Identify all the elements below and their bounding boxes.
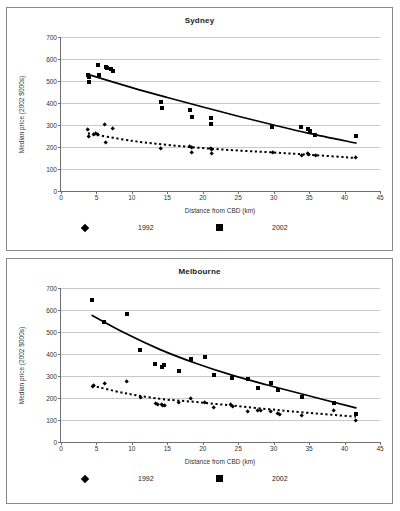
x-axis-tick-label: 10	[128, 194, 135, 201]
y-axis-tick-label: 400	[46, 351, 57, 358]
square-glyph	[216, 224, 223, 231]
data-point-2002	[153, 362, 157, 366]
x-axis-tick-label: 20	[199, 194, 206, 201]
x-axis-tick-label: 0	[59, 194, 63, 201]
plot-area-sydney: 0100200300400500600700051015202530354045	[60, 37, 380, 192]
trend-lines	[61, 288, 380, 442]
y-axis-tick-label: 100	[46, 417, 57, 424]
x-axis-tick-label: 45	[376, 445, 383, 452]
x-axis-tick-label: 40	[341, 194, 348, 201]
data-point-2002	[270, 125, 274, 129]
data-point-2002	[209, 116, 213, 120]
data-point-2002	[162, 363, 166, 367]
x-axis-tick-label: 35	[305, 194, 312, 201]
chart-title-sydney: Sydney	[7, 16, 392, 25]
x-axis-title-melbourne: Distance from CBD (km)	[60, 458, 380, 465]
square-marker-icon	[212, 475, 226, 482]
x-axis-tick-label: 0	[59, 445, 63, 452]
data-point-2002	[299, 125, 303, 129]
plot-wrapper-sydney: Median price (2002 $000s) 01002003004005…	[7, 25, 394, 200]
data-point-2002	[212, 373, 216, 377]
legend-label: 2002	[272, 475, 288, 482]
data-point-2002	[96, 63, 100, 67]
data-point-2002	[177, 369, 181, 373]
y-axis-tick-label: 200	[46, 395, 57, 402]
data-point-2002	[209, 122, 213, 126]
chart-title-melbourne: Melbourne	[7, 267, 392, 276]
x-axis-title-sydney: Distance from CBD (km)	[60, 207, 380, 214]
diamond-glyph	[81, 223, 89, 231]
square-marker-icon	[212, 224, 226, 231]
data-point-2002	[111, 69, 115, 73]
data-point-2002	[276, 388, 280, 392]
diamond-marker-icon	[78, 476, 92, 482]
x-axis-tick-label: 15	[164, 445, 171, 452]
x-axis-tick-label: 45	[376, 194, 383, 201]
data-point-2002	[188, 108, 192, 112]
x-axis-tick-label: 35	[305, 445, 312, 452]
trend-lines	[61, 37, 380, 191]
plot-area-melbourne: 0100200300400500600700051015202530354045	[60, 288, 380, 443]
legend-label: 1992	[138, 224, 154, 231]
diamond-glyph	[81, 474, 89, 482]
square-glyph	[216, 475, 223, 482]
data-point-2002	[246, 377, 250, 381]
top-cropped-caption	[0, 0, 400, 6]
y-axis-tick-label: 700	[46, 285, 57, 292]
data-point-2002	[159, 100, 163, 104]
y-axis-tick-label: 300	[46, 122, 57, 129]
data-point-2002	[87, 75, 91, 79]
legend-item-1992: 1992	[78, 475, 154, 482]
legend-sydney: 19922002	[60, 224, 380, 246]
data-point-2002	[230, 376, 234, 380]
y-axis-tick-label: 0	[53, 439, 57, 446]
data-point-2002	[189, 357, 193, 361]
legend-item-2002: 2002	[212, 475, 288, 482]
y-axis-tick-label: 0	[53, 188, 57, 195]
data-point-2002	[190, 115, 194, 119]
legend-melbourne: 19922002	[60, 475, 380, 497]
diamond-marker-icon	[78, 225, 92, 231]
y-axis-tick-label: 600	[46, 56, 57, 63]
data-point-2002	[102, 320, 106, 324]
y-axis-tick-label: 200	[46, 144, 57, 151]
data-point-2002	[354, 134, 358, 138]
data-point-2002	[90, 298, 94, 302]
legend-item-2002: 2002	[212, 224, 288, 231]
plot-wrapper-melbourne: Median price (2002 $000s) 01002003004005…	[7, 276, 394, 451]
y-axis-tick-label: 400	[46, 100, 57, 107]
trend-line-2002	[92, 316, 356, 408]
legend-label: 1992	[138, 475, 154, 482]
data-point-2002	[87, 80, 91, 84]
data-point-2002	[308, 129, 312, 133]
x-axis-tick-label: 5	[95, 445, 99, 452]
x-axis-tick-label: 25	[235, 194, 242, 201]
x-axis-tick-label: 25	[235, 445, 242, 452]
x-axis-tick-label: 40	[341, 445, 348, 452]
data-point-2002	[97, 73, 101, 77]
x-axis-tick-label: 30	[270, 194, 277, 201]
y-axis-tick-label: 700	[46, 34, 57, 41]
data-point-2002	[354, 412, 358, 416]
data-point-2002	[160, 106, 164, 110]
chart-panel-melbourne: Melbourne Median price (2002 $000s) 0100…	[6, 258, 393, 504]
chart-panel-sydney: Sydney Median price (2002 $000s) 0100200…	[6, 7, 393, 251]
x-axis-tick-label: 30	[270, 445, 277, 452]
legend-label: 2002	[272, 224, 288, 231]
data-point-2002	[313, 133, 317, 137]
y-axis-tick-label: 100	[46, 166, 57, 173]
x-axis-tick-label: 20	[199, 445, 206, 452]
y-axis-tick-label: 500	[46, 78, 57, 85]
data-point-2002	[269, 381, 273, 385]
data-point-2002	[300, 395, 304, 399]
x-axis-tick-label: 10	[128, 445, 135, 452]
legend-item-1992: 1992	[78, 224, 154, 231]
data-point-2002	[125, 312, 129, 316]
y-axis-tick-label: 600	[46, 307, 57, 314]
data-point-2002	[332, 401, 336, 405]
y-axis-title-sydney: Median price (2002 $000s)	[16, 37, 28, 192]
x-axis-tick-label: 15	[164, 194, 171, 201]
x-axis-tick-label: 5	[95, 194, 99, 201]
data-point-2002	[203, 355, 207, 359]
data-point-2002	[256, 386, 260, 390]
